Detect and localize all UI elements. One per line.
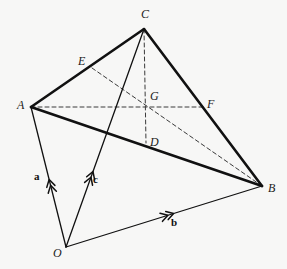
edge-A-B bbox=[31, 107, 262, 186]
vector-arrowheads bbox=[47, 172, 174, 222]
vector-b-label: b bbox=[171, 217, 177, 228]
vector-a-label: a bbox=[34, 171, 40, 182]
vector-c-label: c bbox=[93, 174, 98, 185]
point-label-O: O bbox=[53, 247, 62, 259]
solid-edges bbox=[31, 29, 262, 247]
dashed-median-lines bbox=[31, 29, 262, 186]
point-label-F: F bbox=[207, 98, 214, 110]
edge-A-C bbox=[31, 29, 144, 107]
edge-C-B bbox=[144, 29, 262, 186]
geometry-figure: ABCODEFGacb bbox=[0, 0, 287, 269]
point-label-C: C bbox=[141, 8, 149, 20]
point-label-E: E bbox=[78, 55, 85, 67]
point-label-A: A bbox=[17, 99, 24, 111]
point-label-D: D bbox=[150, 136, 159, 148]
edge-O-B bbox=[66, 186, 262, 247]
point-label-G: G bbox=[150, 90, 159, 102]
median-E-B bbox=[92, 68, 262, 186]
point-label-B: B bbox=[268, 182, 275, 194]
diagram-canvas bbox=[0, 0, 287, 269]
median-C-D bbox=[144, 29, 146, 143]
